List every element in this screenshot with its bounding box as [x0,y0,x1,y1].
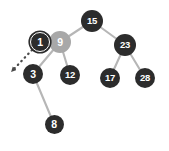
tree-node-17: 17 [100,68,120,88]
tree-node-label: 12 [65,70,75,80]
tree-node-label: 15 [87,16,97,26]
tree-node-8: 8 [45,115,64,134]
tree-node-label: 8 [51,119,57,130]
tree-node-label: 23 [120,40,130,50]
tree-node-label: 28 [140,73,150,83]
tree-node-1: 1 [30,32,50,52]
tree-node-label: 17 [105,73,115,83]
tree-node-23: 23 [114,34,136,56]
tree-node-15: 15 [81,10,103,32]
tree-node-label: 9 [57,37,63,48]
binary-search-tree-diagram: 15912331217288 [0,0,169,151]
tree-node-label: 3 [30,69,36,80]
tree-node-9: 9 [49,31,71,53]
tree-node-3: 3 [23,64,43,84]
tree-node-28: 28 [135,68,155,88]
tree-node-12: 12 [60,65,80,85]
tree-node-label: 1 [37,37,43,48]
